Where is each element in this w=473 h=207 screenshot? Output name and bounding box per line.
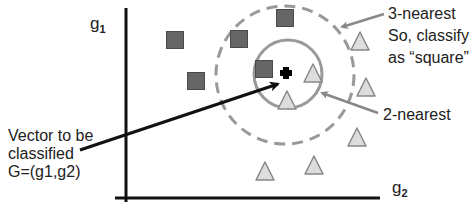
three-nearest-line-1: 3-nearest bbox=[388, 5, 469, 27]
query-vector-arrow bbox=[80, 84, 278, 150]
square-point bbox=[188, 73, 205, 90]
two-nearest-label: 2-nearest bbox=[383, 106, 451, 124]
square-class-points bbox=[167, 10, 294, 90]
query-vector-label: Vector to be classified G=(g1,g2) bbox=[8, 127, 93, 181]
query-line-2: classified bbox=[8, 145, 93, 163]
triangle-point bbox=[357, 78, 375, 96]
y-axis-label: g1 bbox=[90, 14, 106, 35]
triangle-point bbox=[304, 64, 322, 82]
x-axis-label: g2 bbox=[392, 178, 408, 199]
triangle-point bbox=[305, 156, 323, 174]
square-point bbox=[231, 31, 248, 48]
triangle-point bbox=[278, 91, 296, 109]
x-axis-label-subscript: 2 bbox=[401, 187, 407, 199]
three-nearest-line-3: as “square” bbox=[388, 49, 469, 71]
two-nearest-text: 2-nearest bbox=[383, 106, 451, 124]
query-line-1: Vector to be bbox=[8, 127, 93, 145]
triangle-point bbox=[351, 32, 369, 50]
square-point bbox=[167, 32, 184, 49]
triangle-point bbox=[256, 162, 274, 180]
square-point bbox=[277, 10, 294, 27]
three-nearest-label: 3-nearest So, classify as “square” bbox=[388, 5, 469, 71]
y-axis-label-subscript: 1 bbox=[99, 23, 105, 35]
three-nearest-arrow bbox=[342, 14, 384, 27]
three-nearest-line-2: So, classify bbox=[388, 27, 469, 49]
triangle-point bbox=[348, 128, 366, 146]
query-line-3: G=(g1,g2) bbox=[8, 163, 93, 181]
square-point bbox=[256, 61, 273, 78]
query-point-cross bbox=[280, 67, 292, 79]
